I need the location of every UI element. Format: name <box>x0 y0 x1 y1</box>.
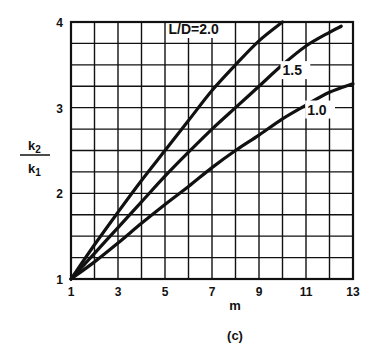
x-tick-labels: 135791113 <box>68 285 360 299</box>
x-tick-label: 7 <box>209 285 216 299</box>
x-tick-label: 11 <box>300 285 313 299</box>
x-axis-label: m <box>229 298 241 313</box>
x-tick-label: 1 <box>68 285 75 299</box>
y-tick-label: 2 <box>56 187 63 201</box>
y-label-numerator-sub: 2 <box>35 144 41 155</box>
x-tick-label: 13 <box>346 285 360 299</box>
y-label-denominator-sub: 1 <box>35 167 41 178</box>
y-tick-label: 4 <box>56 16 63 30</box>
curve-label: 1.5 <box>283 62 303 78</box>
y-tick-label: 1 <box>56 273 63 287</box>
curve-labels: L/D=2.01.51.0 <box>167 20 335 119</box>
x-tick-label: 5 <box>162 285 169 299</box>
curve-label: L/D=2.0 <box>169 21 219 37</box>
svg-text:k2: k2 <box>28 138 41 155</box>
chart: L/D=2.01.51.0 135791113 1234 m k2 k1 (c) <box>0 0 378 360</box>
x-tick-label: 9 <box>256 285 263 299</box>
y-axis-label: k2 k1 <box>20 138 50 178</box>
figure-caption: (c) <box>227 328 243 343</box>
svg-text:k1: k1 <box>28 161 41 178</box>
y-tick-labels: 1234 <box>56 16 63 287</box>
curve-label: 1.0 <box>307 102 327 118</box>
grid <box>71 22 353 279</box>
x-tick-label: 3 <box>115 285 122 299</box>
y-tick-label: 3 <box>56 102 63 116</box>
